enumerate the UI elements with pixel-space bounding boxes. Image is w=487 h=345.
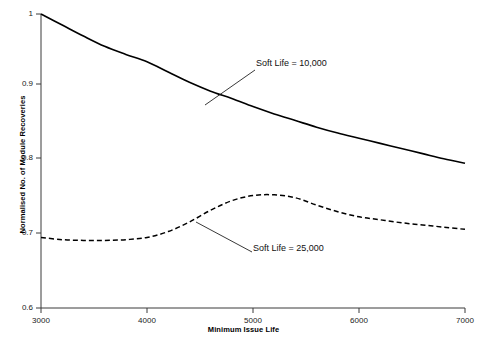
x-tick-label-4000: 4000 bbox=[127, 316, 167, 325]
x-tick-label-7000: 7000 bbox=[445, 316, 485, 325]
x-axis-title: Minimum Issue Life bbox=[0, 325, 487, 334]
y-tick-label-0-6: 0.6 bbox=[8, 303, 33, 312]
series-line-soft-life-25000 bbox=[41, 195, 465, 241]
x-axis-ticks bbox=[41, 308, 465, 313]
series-line-soft-life-10000 bbox=[41, 14, 465, 163]
x-tick-label-3000: 3000 bbox=[21, 316, 61, 325]
chart-figure: 1 0.9 0.8 0.7 0.6 3000 4000 5000 6000 70… bbox=[0, 0, 487, 345]
chart-plot-area bbox=[0, 0, 487, 345]
y-axis-title: Normalised No. of Module Recoveries bbox=[18, 80, 27, 250]
annotation-soft-life-10000: Soft Life = 10,000 bbox=[256, 58, 327, 69]
annotation-soft-life-25000: Soft Life = 25,000 bbox=[253, 243, 324, 254]
leader-line-soft-life-25000 bbox=[196, 222, 252, 252]
leader-line-soft-life-10000 bbox=[205, 70, 255, 105]
x-tick-label-6000: 6000 bbox=[339, 316, 379, 325]
y-tick-label-1: 1 bbox=[14, 9, 33, 18]
y-axis-ticks bbox=[36, 14, 41, 308]
x-tick-label-5000: 5000 bbox=[233, 316, 273, 325]
